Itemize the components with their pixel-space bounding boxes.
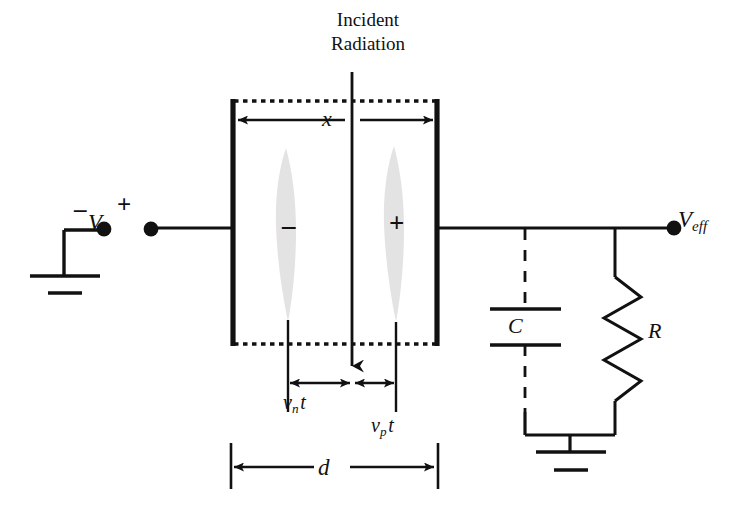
dimension-x-label: x [322, 106, 332, 132]
bias-source-group [30, 222, 232, 293]
detector-body-group [233, 99, 437, 346]
output-voltage-subscript: eff [692, 217, 707, 234]
hole-drift-symbol: v [371, 414, 380, 436]
electron-drift-symbol: v [283, 391, 292, 413]
schematic-canvas [0, 0, 736, 508]
dimension-d-label: d [318, 455, 330, 481]
electron-drift-time: t [300, 391, 306, 413]
bias-negative-sign: – [74, 196, 87, 221]
bias-voltage-symbol: V [88, 210, 102, 235]
output-voltage-label: Veff [678, 207, 707, 235]
hole-cloud-sign: + [389, 210, 404, 237]
resistor-label: R [648, 318, 661, 344]
output-voltage-symbol: V [678, 207, 692, 232]
incident-radiation-line2: Radiation [331, 33, 405, 54]
right-ground-group [525, 435, 615, 470]
bias-positive-sign: + [117, 192, 131, 217]
hole-drift-label: vp t [371, 414, 394, 440]
capacitor-branch-group [490, 229, 561, 435]
dimension-d-group [231, 443, 438, 489]
bias-voltage-label: V0 [88, 210, 110, 238]
detector-circuit-diagram: Incident Radiation – + V0 Veff x d vn t … [0, 0, 736, 508]
incident-radiation-label: Incident Radiation [0, 8, 736, 56]
bias-positive-node [144, 222, 159, 237]
electron-cloud-sign: – [282, 212, 296, 239]
hole-drift-time: t [388, 414, 394, 436]
electron-drift-subscript: n [292, 401, 299, 416]
resistor-zigzag [604, 277, 641, 401]
resistor-branch-group [604, 229, 641, 435]
output-wire-group [437, 221, 681, 236]
incident-radiation-line1: Incident [337, 9, 399, 30]
capacitor-label: C [508, 313, 523, 339]
electron-drift-label: vn t [283, 391, 306, 417]
bias-voltage-subscript: 0 [102, 220, 110, 237]
hole-drift-subscript: p [380, 424, 387, 439]
